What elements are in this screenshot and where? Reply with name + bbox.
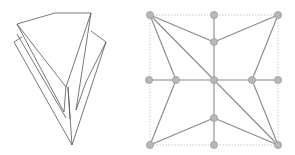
folded-paper-model (14, 13, 106, 145)
node-dot (172, 76, 179, 83)
node-dot (146, 11, 153, 18)
diagram-canvas (0, 0, 295, 155)
node-dot (210, 38, 217, 45)
fold-edge (72, 42, 106, 145)
node-dot (248, 76, 255, 83)
crease-line (214, 80, 278, 145)
node-dot (274, 76, 281, 83)
fold-edge (17, 13, 91, 87)
fold-edge (17, 24, 66, 112)
node-dot (210, 76, 217, 83)
node-dot (210, 141, 217, 148)
fold-edge (76, 13, 106, 110)
node-dot (210, 114, 217, 121)
fold-edge (17, 34, 66, 118)
fold-edge (68, 87, 70, 119)
node-dot (146, 141, 153, 148)
node-dot (145, 76, 152, 83)
node-dot (210, 11, 217, 18)
crease-pattern (145, 11, 281, 148)
node-dot (274, 11, 281, 18)
node-dot (274, 141, 281, 148)
crease-line (150, 15, 214, 80)
